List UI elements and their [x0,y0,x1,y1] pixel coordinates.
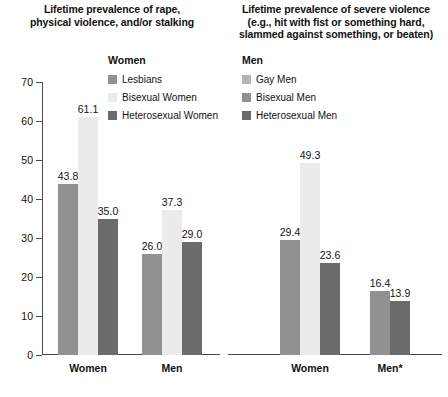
x-axis-label-women: Women [58,362,118,374]
bar-value: 43.8 [58,171,78,182]
bar-value: 16.4 [370,278,390,289]
bar-value: 29.4 [280,227,300,238]
y-tick-label: 40 [21,194,33,205]
chart-title-right-line-1: Lifetime prevalence of severe violence [228,3,444,16]
bar-heterosexual-women-women: 35.0 [98,219,118,356]
y-tick-label: 30 [21,233,33,244]
y-tick-label: 10 [21,311,33,322]
y-tick-label: 70 [21,77,33,88]
y-tick-label: 50 [21,155,33,166]
plot-area-right: 29.4 49.3 23.6 Women 16.4 13.9 Men* [242,82,442,355]
y-tick-label: 0 [27,350,33,361]
x-axis-label-men: Men [142,362,202,374]
y-tick-label: 60 [21,116,33,127]
chart-panel-left: Lifetime prevalence of rape, physical vi… [0,0,224,397]
x-axis-label-women-2: Women [280,362,340,374]
bar-group-women: 43.8 61.1 35.0 Women [58,82,118,355]
chart-title-right-line-2: (e.g., hit with fist or something hard, [228,16,444,29]
figure: Lifetime prevalence of rape, physical vi… [0,0,448,397]
chart-title-left-line-2: physical violence, and/or stalking [4,16,220,29]
plot-area-left: 0 10 20 30 40 50 60 70 43.8 61.1 35.0 Wo… [42,82,218,355]
bar-gay-men-men: 16.4 [370,291,390,355]
legend-left-title: Women [108,54,228,66]
bar-value: 26.0 [142,241,162,252]
bar-heterosexual-women-men: 29.0 [182,242,202,355]
chart-title-left-line-1: Lifetime prevalence of rape, [4,3,220,16]
bar-lesbians-women: 43.8 [58,184,78,355]
bar-value: 37.3 [162,197,182,208]
y-axis-line-left [42,82,43,355]
chart-panel-right: Lifetime prevalence of severe violence (… [224,0,448,397]
bar-bisexual-women-men: 37.3 [162,210,182,356]
bar-value: 23.6 [320,250,340,261]
bar-group-men: 26.0 37.3 29.0 Men [142,82,202,355]
bar-lesbians-men: 26.0 [142,254,162,355]
bar-value: 35.0 [98,206,118,217]
bar-value: 49.3 [300,150,320,161]
chart-title-right-line-3: slammed against something, or beaten) [228,28,444,41]
y-tick-label: 20 [21,272,33,283]
chart-title-right: Lifetime prevalence of severe violence (… [228,3,444,41]
bar-bisexual-men-women: 49.3 [300,163,320,355]
bar-value: 29.0 [182,229,202,240]
bar-bisexual-women-women: 61.1 [78,117,98,355]
bar-value: 13.9 [390,288,410,299]
x-axis-label-men-2: Men* [370,362,410,374]
bar-group-men-2: 16.4 13.9 Men* [370,82,410,355]
legend-right-title: Men [242,54,362,66]
bar-gay-men-women: 29.4 [280,240,300,355]
bar-heterosexual-men-men: 13.9 [390,301,410,355]
bar-heterosexual-men-women: 23.6 [320,263,340,355]
bar-value: 61.1 [78,104,98,115]
bar-group-women-2: 29.4 49.3 23.6 Women [280,82,340,355]
chart-title-left: Lifetime prevalence of rape, physical vi… [4,3,220,28]
